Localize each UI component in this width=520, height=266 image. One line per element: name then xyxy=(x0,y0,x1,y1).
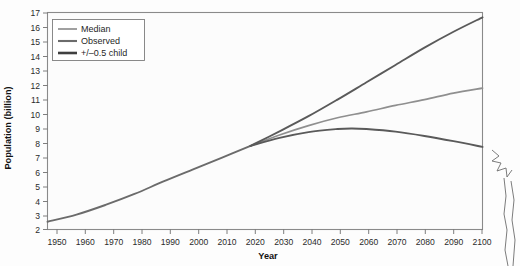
y-tick-label: 12 xyxy=(30,81,40,91)
x-tick-label: 2100 xyxy=(472,237,491,247)
legend-label-half-child: +/–0.5 child xyxy=(81,48,127,58)
chart-legend: Median Observed +/–0.5 child xyxy=(53,20,145,61)
y-tick-label: 6 xyxy=(35,168,40,178)
y-tick-label: 7 xyxy=(35,153,40,163)
x-tick-label: 2080 xyxy=(416,237,435,247)
y-tick-label: 5 xyxy=(35,182,40,192)
x-axis-title: Year xyxy=(258,251,278,261)
x-tick-label: 1970 xyxy=(104,237,123,247)
x-tick-label: 2060 xyxy=(359,237,378,247)
x-tick-label: 1960 xyxy=(76,237,95,247)
y-axis-title: Population (billion) xyxy=(3,86,13,169)
y-tick-label: 13 xyxy=(30,66,40,76)
y-tick-label: 14 xyxy=(30,52,40,62)
y-tick-label: 17 xyxy=(30,8,40,18)
x-tick-label: 1950 xyxy=(47,237,66,247)
x-tick-label: 1980 xyxy=(132,237,151,247)
y-tick-label: 4 xyxy=(35,197,40,207)
y-tick-label: 10 xyxy=(30,110,40,120)
brace-artifact xyxy=(492,150,515,266)
x-axis-ticks: 1950 1960 1970 1980 1990 2000 2010 2020 … xyxy=(47,230,491,248)
x-tick-label: 1990 xyxy=(161,237,180,247)
x-tick-label: 2030 xyxy=(274,237,293,247)
legend-label-median: Median xyxy=(81,24,111,34)
legend-label-observed: Observed xyxy=(81,36,120,46)
y-tick-label: 11 xyxy=(31,95,40,105)
y-tick-label: 9 xyxy=(35,124,40,134)
x-tick-label: 2040 xyxy=(302,237,321,247)
y-tick-label: 3 xyxy=(35,211,40,221)
y-tick-label: 2 xyxy=(35,225,40,235)
x-tick-label: 2070 xyxy=(387,237,406,247)
x-tick-label: 2090 xyxy=(444,237,463,247)
chart-svg: Population (billion) 17 16 15 14 13 12 1… xyxy=(0,0,520,266)
y-axis-ticks: 17 16 15 14 13 12 11 10 9 8 7 6 5 xyxy=(30,8,47,235)
y-tick-label: 16 xyxy=(30,23,40,33)
y-tick-label: 8 xyxy=(35,139,40,149)
population-projection-chart: Population (billion) 17 16 15 14 13 12 1… xyxy=(0,0,520,266)
x-tick-label: 2010 xyxy=(217,237,236,247)
x-tick-label: 2020 xyxy=(246,237,265,247)
x-tick-label: 2000 xyxy=(189,237,208,247)
y-tick-label: 15 xyxy=(30,37,40,47)
x-tick-label: 2050 xyxy=(331,237,350,247)
